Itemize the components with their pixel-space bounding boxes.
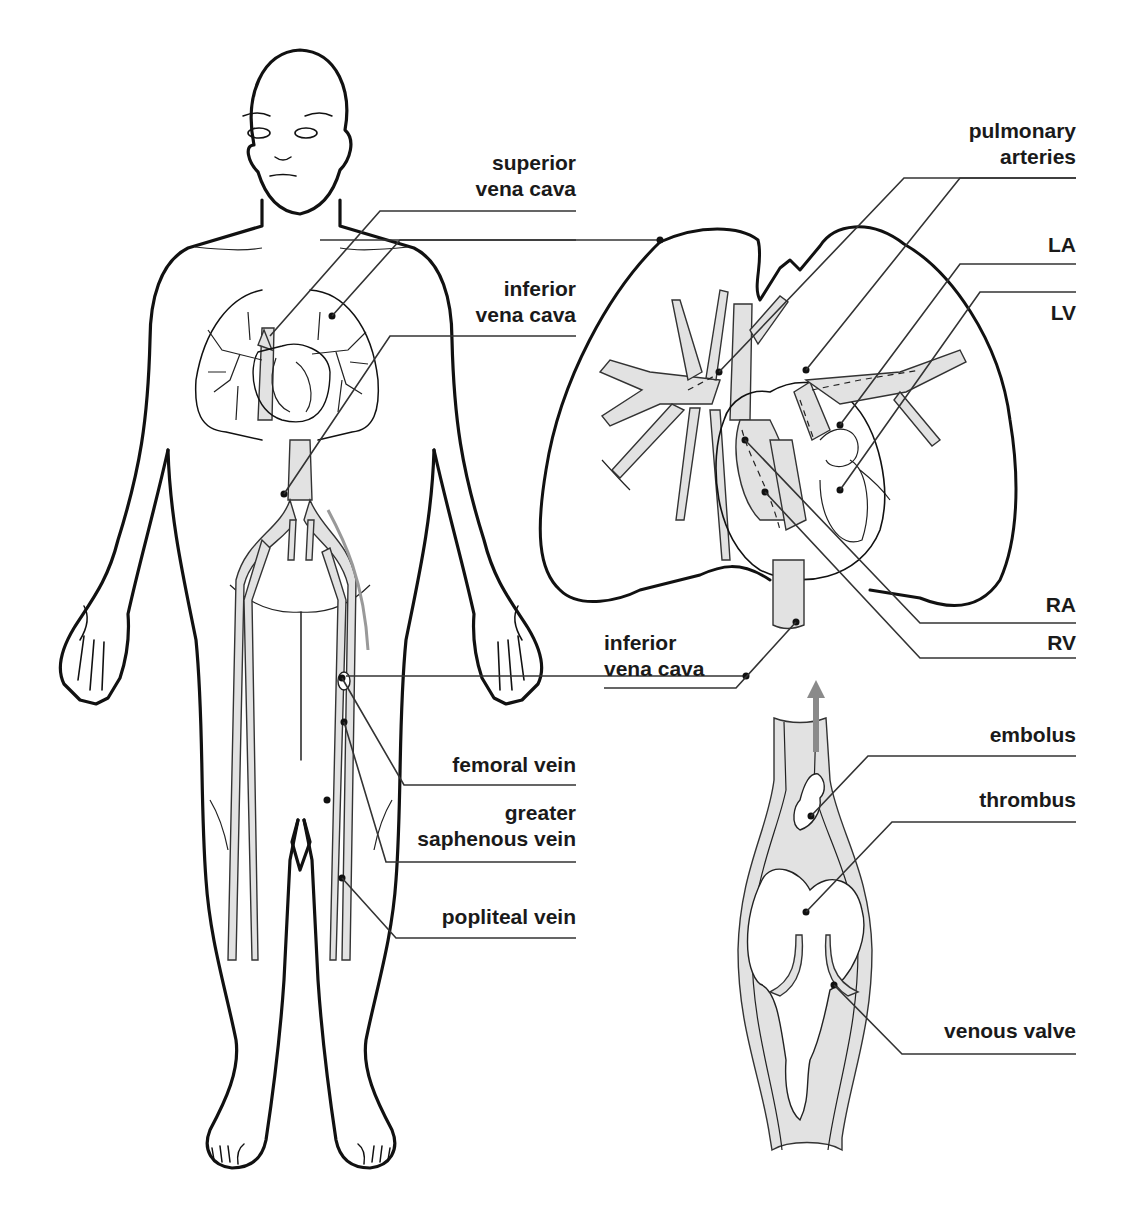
label-venous-valve: venous valve — [880, 1018, 1076, 1044]
label-superior-vena-cava: superior vena cava — [380, 150, 576, 202]
label-inferior-vena-cava-heart: inferior vena cava — [604, 630, 804, 682]
label-inferior-vena-cava-body: inferior vena cava — [380, 276, 576, 328]
label-ra: RA — [980, 592, 1076, 618]
label-femoral-vein: femoral vein — [360, 752, 576, 778]
label-la: LA — [980, 232, 1076, 258]
human-body-figure — [60, 50, 541, 1168]
label-rv: RV — [980, 630, 1076, 656]
label-thrombus: thrombus — [900, 787, 1076, 813]
label-lv: LV — [980, 300, 1076, 326]
label-greater-saphenous-vein: greater saphenous vein — [340, 800, 576, 852]
label-embolus: embolus — [900, 722, 1076, 748]
dvt-diagram: superior vena cava inferior vena cava fe… — [0, 0, 1126, 1215]
label-pulmonary-arteries: pulmonary arteries — [880, 118, 1076, 170]
vein-cross-section — [738, 680, 872, 1150]
label-popliteal-vein: popliteal vein — [360, 904, 576, 930]
heart-lungs-figure — [540, 227, 1016, 629]
